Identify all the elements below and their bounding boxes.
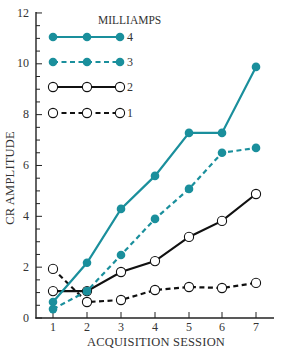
- legend-title: MILLIAMPS: [98, 14, 161, 26]
- data-point-marker: [252, 144, 261, 153]
- data-point-marker: [117, 205, 126, 214]
- series-line: [53, 67, 256, 302]
- legend-marker: [116, 58, 125, 67]
- y-tick-label-2: 2: [23, 260, 29, 274]
- data-point-marker: [48, 264, 57, 273]
- data-point-marker: [217, 216, 226, 225]
- legend-marker: [49, 58, 58, 67]
- data-point-marker: [48, 287, 57, 296]
- y-tick-label-0: 0: [23, 311, 29, 325]
- series-4-milliamps: [49, 63, 261, 307]
- data-point-marker: [218, 149, 227, 158]
- legend-row-4: [49, 33, 125, 42]
- legend-label-4: 4: [127, 30, 133, 44]
- data-point-marker: [150, 285, 159, 294]
- legend-row-2: [48, 82, 124, 91]
- data-point-marker: [184, 232, 193, 241]
- data-point-marker: [116, 267, 125, 276]
- data-point-marker: [184, 282, 193, 291]
- y-tick-label-4: 4: [23, 209, 29, 223]
- x-tick-label-1: 1: [50, 320, 56, 334]
- x-tick-label-3: 3: [118, 320, 124, 334]
- legend: MILLIAMPS 4 3 2 1: [48, 14, 161, 120]
- data-point-marker: [49, 298, 58, 307]
- data-point-marker: [185, 185, 194, 194]
- legend-marker: [115, 82, 124, 91]
- legend-marker: [48, 108, 57, 117]
- data-point-marker: [217, 283, 226, 292]
- y-ticks: [36, 13, 42, 318]
- y-tick-labels: 0 2 4 6 8 10 12: [17, 6, 29, 325]
- legend-marker: [82, 82, 91, 91]
- series-line: [53, 194, 256, 291]
- data-point-marker: [251, 189, 260, 198]
- legend-label-2: 2: [127, 80, 133, 94]
- axes: [35, 12, 274, 319]
- legend-label-1: 1: [127, 106, 133, 120]
- legend-row-3: [49, 58, 125, 67]
- data-point-marker: [218, 129, 227, 138]
- data-point-marker: [150, 257, 159, 266]
- legend-rows: [48, 33, 124, 118]
- legend-row-1: [48, 108, 124, 117]
- data-point-marker: [82, 297, 91, 306]
- legend-label-3: 3: [127, 55, 133, 69]
- y-tick-label-8: 8: [23, 107, 29, 121]
- data-point-marker: [251, 278, 260, 287]
- data-point-marker: [185, 129, 194, 138]
- data-point-marker: [151, 172, 160, 181]
- y-tick-label-10: 10: [17, 56, 29, 70]
- legend-marker: [82, 108, 91, 117]
- y-tick-label-6: 6: [23, 158, 29, 172]
- x-ticks: [53, 312, 256, 318]
- legend-marker: [49, 33, 58, 42]
- x-axis-title: ACQUISITION SESSION: [87, 335, 225, 349]
- x-tick-label-4: 4: [152, 320, 158, 334]
- legend-marker: [83, 58, 92, 67]
- data-point-marker: [83, 287, 92, 296]
- y-axis-title: CR AMPLITUDE: [3, 131, 17, 225]
- y-tick-label-12: 12: [17, 6, 29, 20]
- legend-marker: [116, 33, 125, 42]
- series-2-milliamps: [48, 189, 260, 295]
- data-point-marker: [151, 215, 160, 224]
- legend-marker: [48, 82, 57, 91]
- series-layer: [48, 63, 260, 314]
- legend-marker: [115, 108, 124, 117]
- data-point-marker: [252, 63, 261, 72]
- x-tick-label-7: 7: [253, 320, 259, 334]
- x-tick-label-6: 6: [219, 320, 225, 334]
- x-tick-labels: 1 2 3 4 5 6 7: [50, 320, 259, 334]
- x-tick-label-5: 5: [186, 320, 192, 334]
- x-tick-label-2: 2: [84, 320, 90, 334]
- data-point-marker: [117, 251, 126, 260]
- legend-marker: [83, 33, 92, 42]
- data-point-marker: [116, 295, 125, 304]
- data-point-marker: [83, 259, 92, 268]
- line-chart: 0 2 4 6 8 10 12 1 2 3 4 5 6 7 ACQUISITIO…: [0, 0, 282, 354]
